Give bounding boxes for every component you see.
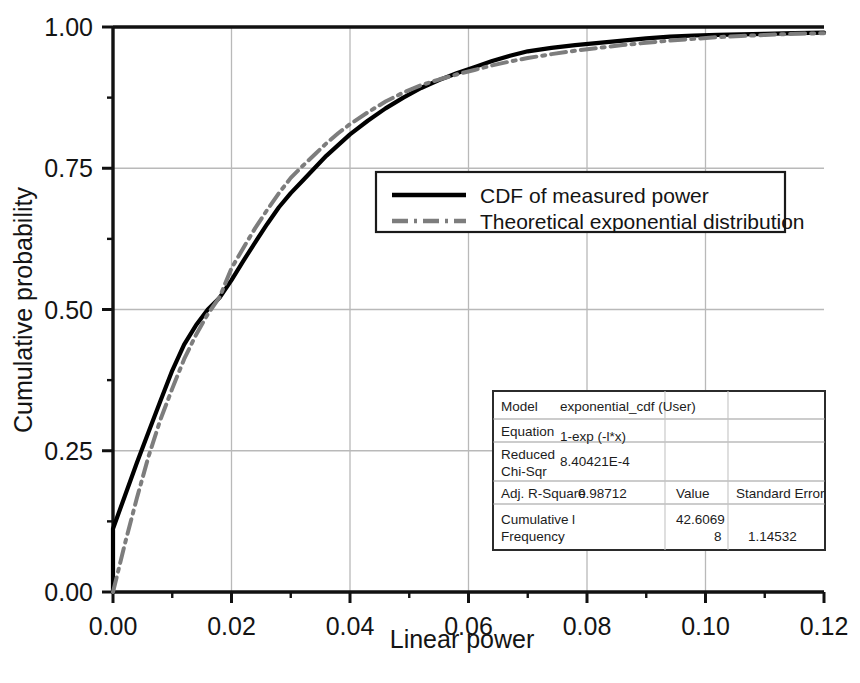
stats-param-value-line1: 42.6069 — [676, 512, 725, 527]
y-axis-label: Cumulative probability — [9, 187, 37, 433]
legend-label-measured: CDF of measured power — [480, 184, 709, 207]
stats-label-reduced: Reduced — [501, 447, 555, 462]
chart-figure: 0.000.020.040.060.080.100.120.000.250.50… — [0, 0, 860, 683]
cdf-chart: 0.000.020.040.060.080.100.120.000.250.50… — [0, 0, 860, 683]
chart-legend: CDF of measured power Theoretical expone… — [376, 172, 805, 233]
stats-param-symbol: l — [572, 512, 575, 527]
legend-label-theoretical: Theoretical exponential distribution — [480, 210, 805, 233]
stats-label-cumulative: Cumulative — [501, 512, 569, 527]
stats-label-equation: Equation — [501, 424, 554, 439]
stats-value-model: exponential_cdf (User) — [560, 399, 696, 414]
x-axis-label: Linear power — [390, 625, 535, 653]
y-tick-label: 0.00 — [44, 578, 93, 606]
stats-label-adj-rsquare: Adj. R-Square — [501, 486, 586, 501]
y-tick-label: 0.75 — [44, 154, 93, 182]
stats-header-std-error: Standard Error — [736, 486, 825, 501]
y-tick-label: 0.50 — [44, 296, 93, 324]
stats-param-std-error: 1.14532 — [748, 529, 797, 544]
stats-param-value-line2: 8 — [714, 529, 722, 544]
y-tick-label: 1.00 — [44, 13, 93, 41]
stats-header-value: Value — [676, 486, 710, 501]
x-tick-label: 0.10 — [681, 612, 730, 640]
x-tick-label: 0.02 — [207, 612, 256, 640]
fit-statistics-table: Model exponential_cdf (User) Equation 1-… — [493, 391, 825, 550]
stats-value-chisqr: 8.40421E-4 — [560, 454, 630, 469]
x-tick-label: 0.12 — [800, 612, 849, 640]
stats-label-frequency: Frequency — [501, 529, 565, 544]
stats-value-equation: 1-exp (-l*x) — [560, 429, 626, 444]
stats-label-model: Model — [501, 399, 538, 414]
x-tick-label: 0.04 — [326, 612, 375, 640]
y-tick-label: 0.25 — [44, 437, 93, 465]
x-tick-label: 0.08 — [563, 612, 612, 640]
x-tick-label: 0.00 — [89, 612, 138, 640]
stats-label-chisqr: Chi-Sqr — [501, 464, 547, 479]
stats-value-adj-rsquare: 0.98712 — [578, 486, 627, 501]
